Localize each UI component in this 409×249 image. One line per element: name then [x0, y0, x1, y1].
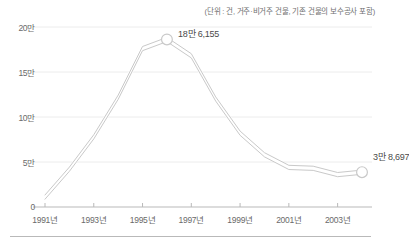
data-point-label: 3만 8,697 [373, 150, 409, 163]
data-point-label: 18만 6,155 [178, 27, 219, 40]
bottom-divider [10, 236, 371, 237]
